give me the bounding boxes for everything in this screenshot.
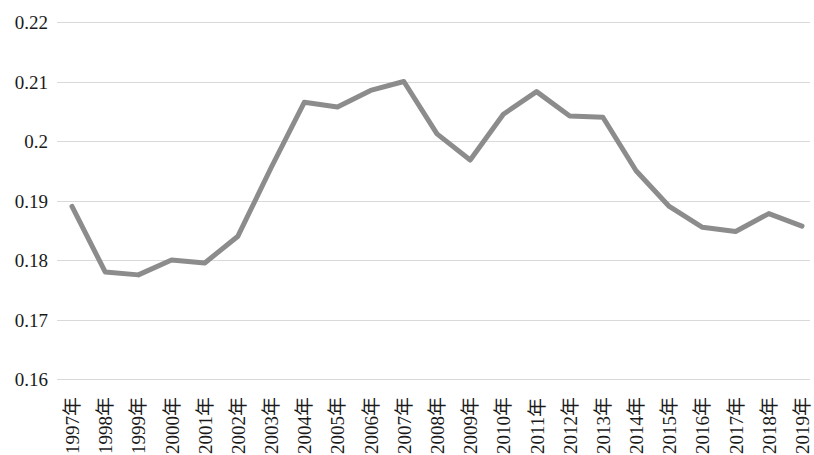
x-axis-tick-text: 1997年: [62, 380, 84, 455]
x-axis-tick-label: 2011年: [527, 380, 549, 455]
y-axis-tick-label: 0.22: [0, 13, 48, 32]
y-axis-tick-label: 0.19: [0, 191, 48, 210]
x-axis-tick-text: 2017年: [726, 380, 748, 455]
x-axis-tick-label: 2019年: [792, 380, 814, 455]
x-axis-tick-text: 2016年: [692, 380, 714, 455]
x-axis-tick-label: 2003年: [261, 380, 283, 455]
x-axis-tick-label: 2017年: [726, 380, 748, 455]
data-series-line: [57, 0, 810, 380]
x-axis-tick-text: 2019年: [792, 380, 814, 455]
x-axis-tick-text: 1998年: [95, 380, 117, 455]
y-axis-tick-label: 0.17: [0, 310, 48, 329]
x-axis-tick-text: 2001年: [195, 380, 217, 455]
x-axis-tick-label: 2009年: [460, 380, 482, 455]
x-axis-tick-label: 2014年: [626, 380, 648, 455]
x-axis-tick-label: 2018年: [759, 380, 781, 455]
x-axis-tick-label: 2016年: [692, 380, 714, 455]
x-axis-tick-text: 2005年: [327, 380, 349, 455]
x-axis-tick-label: 2006年: [361, 380, 383, 455]
x-axis-tick-text: 2008年: [427, 380, 449, 455]
x-axis-tick-text: 2012年: [560, 380, 582, 455]
x-axis-tick-text: 2007年: [394, 380, 416, 455]
x-axis-tick-label: 2012年: [560, 380, 582, 455]
x-axis-tick-text: 2013年: [593, 380, 615, 455]
x-axis-tick-label: 1998年: [95, 380, 117, 455]
x-axis-tick-label: 2004年: [294, 380, 316, 455]
x-axis-tick-text: 2006年: [361, 380, 383, 455]
x-axis-tick-text: 1999年: [128, 380, 150, 455]
x-axis-tick-text: 2009年: [460, 380, 482, 455]
x-axis-tick-text: 2011年: [527, 380, 549, 455]
x-axis-tick-label: 2013年: [593, 380, 615, 455]
x-axis-tick-label: 2008年: [427, 380, 449, 455]
x-axis-tick-text: 2000年: [162, 380, 184, 455]
x-axis-tick-label: 2000年: [162, 380, 184, 455]
x-axis-tick-label: 2010年: [493, 380, 515, 455]
y-axis-tick-label: 0.21: [0, 72, 48, 91]
y-axis-tick-label: 0.2: [0, 132, 48, 151]
x-axis: 1997年1998年1999年2000年2001年2002年2003年2004年…: [57, 380, 810, 455]
x-axis-tick-label: 2015年: [659, 380, 681, 455]
plot-area: [57, 0, 810, 380]
x-axis-tick-label: 2005年: [327, 380, 349, 455]
x-axis-tick-label: 1999年: [128, 380, 150, 455]
x-axis-tick-label: 2002年: [228, 380, 250, 455]
x-axis-tick-text: 2002年: [228, 380, 250, 455]
y-axis-tick-label: 0.16: [0, 370, 48, 389]
x-axis-tick-text: 2010年: [493, 380, 515, 455]
x-axis-tick-label: 2001年: [195, 380, 217, 455]
series-polyline: [72, 82, 802, 275]
x-axis-tick-text: 2004年: [294, 380, 316, 455]
x-axis-tick-text: 2003年: [261, 380, 283, 455]
y-axis-tick-label: 0.18: [0, 251, 48, 270]
x-axis-tick-text: 2018年: [759, 380, 781, 455]
x-axis-tick-text: 2014年: [626, 380, 648, 455]
x-axis-tick-text: 2015年: [659, 380, 681, 455]
x-axis-tick-label: 1997年: [62, 380, 84, 455]
x-axis-tick-label: 2007年: [394, 380, 416, 455]
